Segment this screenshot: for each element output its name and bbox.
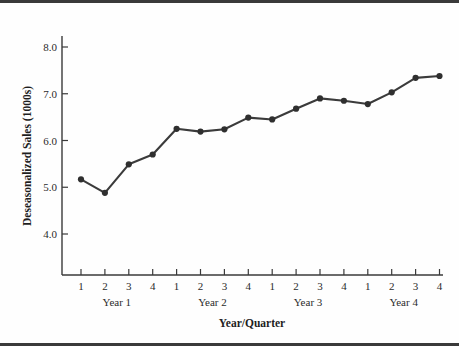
x-axis-group-label: Year 4: [389, 296, 418, 308]
x-tick-label: 1: [269, 280, 275, 292]
x-tick-label: 1: [365, 280, 371, 292]
data-point: [126, 161, 132, 167]
x-axis-group-label: Year 2: [198, 296, 227, 308]
y-tick-label: 5.0: [43, 181, 57, 193]
x-tick-label: 4: [150, 280, 156, 292]
line-chart-svg: 4.05.06.07.08.0 1234123412341234 Year 1Y…: [0, 3, 459, 346]
x-tick-label: 1: [78, 280, 84, 292]
x-axis-tick-labels: 1234123412341234: [78, 280, 443, 292]
x-tick-label: 4: [246, 280, 252, 292]
x-tick-label: 2: [389, 280, 395, 292]
chart-axes: [62, 36, 443, 275]
x-tick-label: 2: [102, 280, 108, 292]
data-point: [365, 101, 371, 107]
data-point: [341, 98, 347, 104]
x-tick-label: 1: [174, 280, 180, 292]
x-axis-group-labels: Year 1Year 2Year 3Year 4: [103, 296, 419, 308]
data-series-line: [81, 76, 440, 193]
data-point: [413, 75, 419, 81]
x-tick-label: 4: [437, 280, 443, 292]
data-point: [436, 73, 442, 79]
x-tick-label: 3: [413, 280, 419, 292]
x-axis-ticks: [81, 269, 440, 275]
data-point: [197, 129, 203, 135]
data-series-markers: [78, 73, 443, 196]
x-tick-label: 2: [293, 280, 299, 292]
y-axis-title: Deseasonalized Sales (1000s): [21, 86, 34, 226]
y-tick-label: 4.0: [43, 228, 57, 240]
data-point: [221, 126, 227, 132]
data-point: [269, 116, 275, 122]
x-axis-group-label: Year 1: [103, 296, 132, 308]
x-tick-label: 3: [317, 280, 323, 292]
x-axis-group-label: Year 3: [294, 296, 323, 308]
x-tick-label: 4: [341, 280, 347, 292]
x-tick-label: 3: [222, 280, 228, 292]
figure-frame: 4.05.06.07.08.0 1234123412341234 Year 1Y…: [0, 0, 459, 346]
data-point: [102, 190, 108, 196]
x-axis-title: Year/Quarter: [219, 317, 285, 329]
y-tick-label: 8.0: [43, 41, 57, 53]
x-tick-label: 2: [198, 280, 204, 292]
data-point: [317, 95, 323, 101]
data-point: [293, 106, 299, 112]
data-point: [150, 151, 156, 157]
y-tick-label: 7.0: [43, 88, 57, 100]
data-point: [245, 114, 251, 120]
x-tick-label: 3: [126, 280, 132, 292]
data-point: [389, 89, 395, 95]
y-tick-label: 6.0: [43, 135, 57, 147]
y-axis-tick-labels: 4.05.06.07.08.0: [43, 41, 57, 240]
data-point: [174, 126, 180, 132]
y-axis-ticks: [62, 47, 68, 234]
data-point: [78, 176, 84, 182]
chart-plot-area: 4.05.06.07.08.0 1234123412341234 Year 1Y…: [0, 3, 459, 346]
